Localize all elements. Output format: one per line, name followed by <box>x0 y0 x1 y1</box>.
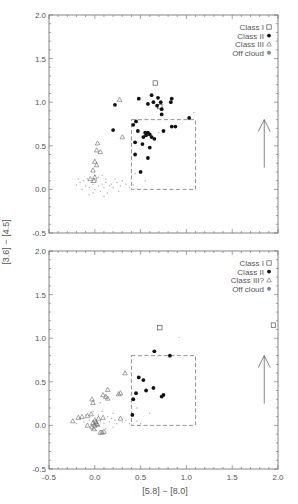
series-class-i <box>158 323 276 330</box>
y-tick-label: 2.0 <box>35 247 47 256</box>
legend-label: Off cloud <box>232 49 264 58</box>
figure: -0.50.00.51.01.52.0Class IClass IIClass … <box>0 0 298 504</box>
series-class-iii <box>71 371 128 434</box>
y-tick-label: 0.5 <box>35 378 47 387</box>
y-tick-label: 0.0 <box>35 185 47 194</box>
y-tick-label: 2.0 <box>35 11 47 20</box>
selection-box <box>131 356 195 426</box>
x-tick-label: -0.5 <box>42 473 56 482</box>
y-tick-label: 1.0 <box>35 98 47 107</box>
y-tick-label: 1.0 <box>35 334 47 343</box>
x-axis-label: [5.8] − [8.0] <box>142 486 187 496</box>
x-tick-label: 0.5 <box>135 473 147 482</box>
y-tick-label: -0.5 <box>32 229 46 238</box>
x-tick-label: 1.5 <box>227 473 239 482</box>
x-tick-label: 0.0 <box>89 473 101 482</box>
x-tick-label: 2.0 <box>272 473 284 482</box>
y-tick-label: 1.5 <box>35 291 47 300</box>
x-tick-label: 1.0 <box>181 473 193 482</box>
panel-top: -0.50.00.51.01.52.0Class IClass IIClass … <box>32 11 278 238</box>
legend-label: Off cloud <box>232 285 264 294</box>
series-class-ii <box>130 349 171 416</box>
legend: Class IClass IIClass IIIOff cloud <box>232 23 271 58</box>
legend: Class IClass IIClass III?Off cloud <box>231 259 272 294</box>
series-class-ii <box>111 93 191 174</box>
series-off-cloud <box>76 337 180 432</box>
y-axis-label: [3.6] − [4.5] <box>1 219 11 264</box>
scatter-plot-figure: -0.50.00.51.01.52.0Class IClass IIClass … <box>0 0 298 504</box>
y-tick-label: 1.5 <box>35 55 47 64</box>
y-tick-label: 0.5 <box>35 142 47 151</box>
panel-bottom: -0.50.00.51.01.52.0-0.50.00.51.01.52.0Cl… <box>32 247 284 482</box>
y-tick-label: 0.0 <box>35 421 47 430</box>
series-class-iii <box>88 97 125 182</box>
